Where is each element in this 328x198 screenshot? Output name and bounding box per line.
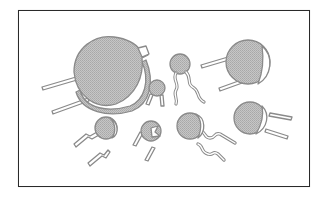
small-disc-bottom-right-icon (177, 113, 235, 160)
large-disc-left-icon (42, 37, 150, 114)
medium-disc-right-icon (234, 102, 292, 139)
capacitors-illustration (0, 0, 328, 198)
large-disc-right-icon (201, 40, 270, 91)
small-disc-bottom-center-icon (133, 121, 161, 161)
small-bead-top-center-icon (170, 54, 204, 104)
small-disc-bottom-left-icon (74, 117, 117, 166)
